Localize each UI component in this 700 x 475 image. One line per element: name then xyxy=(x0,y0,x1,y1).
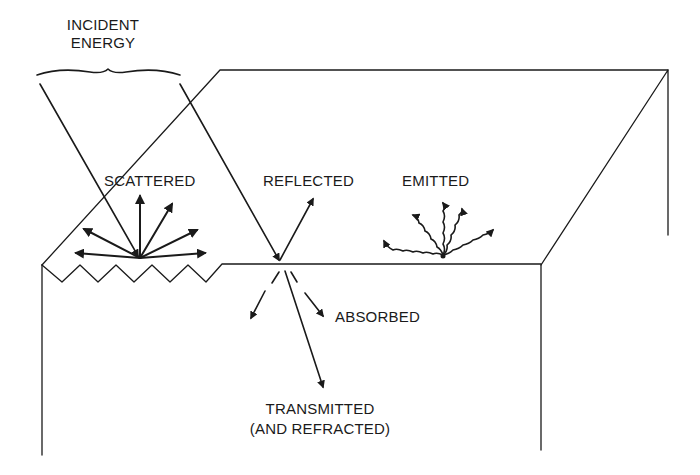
emitted-label: EMITTED xyxy=(402,172,469,189)
reflected-label: REFLECTED xyxy=(263,172,354,189)
top-surface-right-edge xyxy=(541,70,668,265)
emitted-group: EMITTED xyxy=(384,172,493,259)
transmitted-label-line2: (AND REFRACTED) xyxy=(250,420,391,437)
emitted-arrow xyxy=(413,215,443,255)
top-surface-back-edge xyxy=(42,70,668,265)
transmitted-label-line1: TRANSMITTED xyxy=(266,400,375,417)
scattered-label: SCATTERED xyxy=(104,172,196,189)
emission-point xyxy=(441,254,446,259)
subsurface-group: ABSORBED TRANSMITTED (AND REFRACTED) xyxy=(250,271,420,437)
scattered-arrows: SCATTERED xyxy=(76,172,205,258)
absorbed-arrow-right xyxy=(305,293,323,316)
incident-label-line2: ENERGY xyxy=(71,34,136,51)
incident-label-line1: INCIDENT xyxy=(67,16,139,33)
surface-block xyxy=(42,70,668,455)
emitted-arrow xyxy=(443,203,445,255)
incident-brace xyxy=(37,69,180,75)
emitted-arrow xyxy=(384,241,443,255)
reflected-arrow xyxy=(280,199,313,260)
absorbed-arrow-left xyxy=(251,291,265,318)
energy-interaction-diagram: INCIDENT ENERGY SCATTERED REFLECTED EMIT… xyxy=(0,0,700,475)
reflected-group: REFLECTED xyxy=(263,172,354,260)
transmitted-arrow xyxy=(285,271,323,387)
emitted-arrow xyxy=(443,230,493,255)
absorbed-dash xyxy=(272,272,279,283)
absorbed-dash xyxy=(291,272,297,282)
incident-ray-left xyxy=(40,84,138,256)
absorbed-label: ABSORBED xyxy=(335,308,420,325)
